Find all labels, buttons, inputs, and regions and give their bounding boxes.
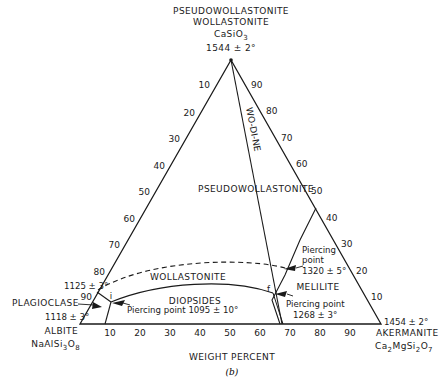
bottom-edge-ticks: 10 20 30 40 50 60 70 80 90 xyxy=(104,328,356,338)
piercing-i-annotation: Piercing point 1095 ± 10° xyxy=(127,305,238,315)
arrow-1320-icon xyxy=(284,265,296,271)
field-melilite: MELILITE xyxy=(296,282,339,292)
left-edge-ticks: 10 20 30 40 50 60 70 80 90 xyxy=(81,80,211,302)
svg-text:30: 30 xyxy=(164,328,176,338)
field-pseudowollastonite: PSEUDOWOLLASTONITE xyxy=(198,184,314,194)
arrow-plagioclase-icon xyxy=(92,302,102,309)
svg-text:80: 80 xyxy=(266,106,278,116)
field-wollastonite: WOLLASTONITE xyxy=(150,272,226,282)
akermanite-formula: Ca2MgSi2O7 xyxy=(375,341,433,354)
akermanite-label: AKERMANITE xyxy=(376,328,439,338)
svg-text:50: 50 xyxy=(139,187,151,197)
svg-text:30: 30 xyxy=(169,134,181,144)
svg-text:60: 60 xyxy=(124,214,136,224)
akermanite-temp: 1454 ± 2° xyxy=(384,317,428,327)
svg-text:80: 80 xyxy=(94,267,106,277)
svg-text:30: 30 xyxy=(341,239,353,249)
piercing-1320-line2: point xyxy=(302,255,325,265)
albite-label: ALBITE xyxy=(44,326,78,336)
svg-text:70: 70 xyxy=(284,328,296,338)
left-edge-temp: 1125 ± 3° xyxy=(64,281,108,291)
svg-text:90: 90 xyxy=(251,80,263,90)
svg-text:20: 20 xyxy=(356,266,368,276)
plagioclase-label: PLAGIOCLASE xyxy=(12,298,79,308)
svg-text:10: 10 xyxy=(371,292,383,302)
point-i-label: i xyxy=(110,291,112,301)
svg-text:20: 20 xyxy=(184,108,196,118)
top-vertex-temp: 1544 ± 2° xyxy=(206,43,256,53)
piercing-1320-temp: 1320 ± 5° xyxy=(302,266,346,276)
piercing-f-temp: 1268 ± 3° xyxy=(293,310,337,320)
svg-text:90: 90 xyxy=(344,328,356,338)
wo-di-ne-label: WO-DI-NE xyxy=(244,106,262,152)
svg-text:90: 90 xyxy=(81,292,93,302)
svg-text:20: 20 xyxy=(134,328,146,338)
top-vertex-formula: CaSiO3 xyxy=(214,29,248,42)
svg-text:60: 60 xyxy=(254,328,266,338)
svg-text:60: 60 xyxy=(296,159,308,169)
svg-text:40: 40 xyxy=(194,328,206,338)
axis-label: WEIGHT PERCENT xyxy=(189,352,275,362)
svg-text:10: 10 xyxy=(104,328,116,338)
svg-text:50: 50 xyxy=(224,328,236,338)
svg-text:40: 40 xyxy=(154,161,166,171)
piercing-f-line1: Piercing point xyxy=(286,299,345,309)
svg-text:40: 40 xyxy=(326,213,338,223)
svg-text:10: 10 xyxy=(199,80,211,90)
top-vertex-name-1: PSEUDOWOLLASTONITE xyxy=(173,6,289,16)
plagioclase-base-boundary xyxy=(105,302,111,324)
albite-formula: NaAlSi3O8 xyxy=(31,339,80,352)
svg-text:70: 70 xyxy=(109,240,121,250)
top-vertex-name-2: WOLLASTONITE xyxy=(193,17,269,27)
svg-text:70: 70 xyxy=(281,133,293,143)
ternary-diagram: PSEUDOWOLLASTONITE WOLLASTONITE CaSiO3 1… xyxy=(0,0,448,382)
piercing-1320-line1: Piercing xyxy=(302,245,336,255)
figure-caption: (b) xyxy=(226,367,239,377)
svg-text:80: 80 xyxy=(314,328,326,338)
albite-temp: 1118 ± 3° xyxy=(45,312,89,322)
